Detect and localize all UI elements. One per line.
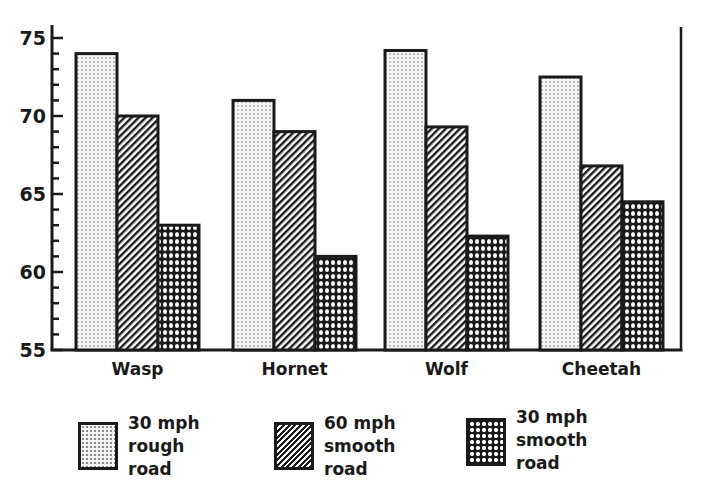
x-category-label: Wasp — [112, 359, 164, 379]
legend-item-60mph-smooth: 60 mphsmoothroad — [274, 412, 396, 481]
legend-label: 30 mphsmoothroad — [516, 406, 588, 475]
bar-wolf-dots — [385, 50, 426, 350]
y-tick-label: 60 — [20, 261, 46, 283]
y-tick-label: 55 — [20, 339, 46, 361]
bars — [76, 50, 663, 350]
legend-label: 30 mphroughroad — [128, 412, 200, 481]
dots-pattern-swatch — [78, 422, 118, 470]
crosshatch-pattern-swatch — [466, 418, 506, 466]
x-category-label: Hornet — [261, 359, 327, 379]
y-tick-label: 70 — [20, 105, 46, 127]
bar-cheetah-dots — [540, 77, 581, 350]
y-tick-label: 75 — [20, 27, 46, 49]
bar-wasp-diagonal-hatch — [117, 116, 158, 350]
bar-wasp-crosshatch — [158, 225, 199, 350]
bar-wasp-dots — [76, 54, 117, 350]
x-category-label: Wolf — [425, 359, 469, 379]
legend-item-30mph-rough: 30 mphroughroad — [78, 412, 200, 481]
bar-chart: 5560657075WaspHornetWolfCheetah — [0, 0, 706, 410]
bar-cheetah-diagonal-hatch — [581, 166, 622, 350]
legend-item-30mph-smooth: 30 mphsmoothroad — [466, 412, 588, 475]
bar-hornet-dots — [233, 100, 274, 350]
x-category-label: Cheetah — [562, 359, 641, 379]
legend: 30 mphroughroad 60 mphsmoothroad 30 mphs… — [0, 412, 706, 486]
y-tick-label: 65 — [20, 183, 46, 205]
hatch-pattern-swatch — [274, 422, 314, 470]
bar-hornet-crosshatch — [315, 256, 356, 350]
bar-cheetah-crosshatch — [622, 202, 663, 350]
bar-wolf-crosshatch — [467, 236, 508, 350]
bar-hornet-diagonal-hatch — [274, 132, 315, 350]
legend-label: 60 mphsmoothroad — [324, 412, 396, 481]
bar-wolf-diagonal-hatch — [426, 127, 467, 350]
